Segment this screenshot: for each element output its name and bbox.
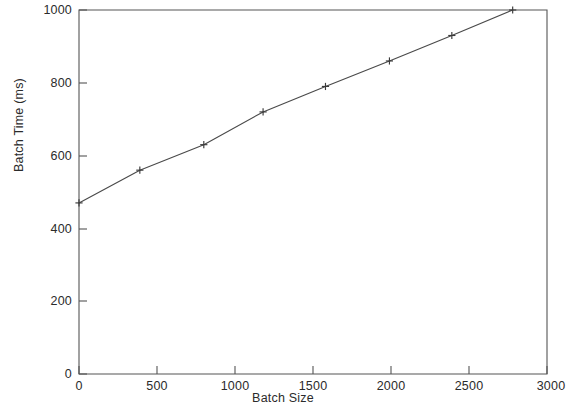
data-series-line (79, 10, 513, 203)
y-axis-ticks (79, 10, 87, 374)
plot-canvas (0, 0, 566, 410)
y-tick-label-400: 400 (20, 222, 72, 236)
y-tick-label-200: 200 (20, 294, 72, 308)
y-tick-label-600: 600 (20, 149, 72, 163)
y-tick-label-1000: 1000 (20, 3, 72, 17)
plot-border (79, 10, 547, 374)
y-axis-title: Batch Time (ms) (12, 45, 26, 205)
chart-figure: 1000 800 600 400 200 0 0 500 1000 1500 2… (0, 0, 566, 410)
y-tick-label-0: 0 (20, 367, 72, 381)
x-axis-ticks (79, 366, 547, 374)
plot-frame (79, 10, 547, 374)
x-axis-title: Batch Size (0, 391, 566, 405)
y-tick-label-800: 800 (20, 76, 72, 90)
